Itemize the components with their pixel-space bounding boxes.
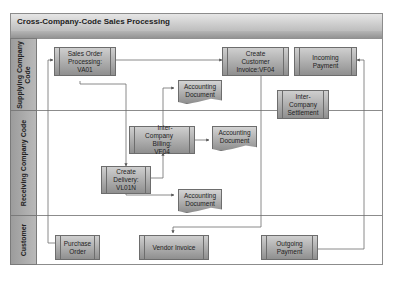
node-text: Delivery:	[107, 176, 144, 183]
node-text: Company	[283, 101, 323, 108]
node-text: Create	[240, 50, 272, 57]
node-vendor-invoice[interactable]: Vendor Invoice	[139, 235, 209, 260]
node-text: VF04	[148, 148, 176, 155]
node-text: Document	[185, 200, 215, 207]
node-text: Create	[110, 168, 142, 175]
node-text: Billing:	[146, 140, 177, 147]
node-text: Purchase	[58, 240, 97, 247]
node-text: VL01N	[110, 184, 142, 191]
node-text: Accounting	[218, 129, 250, 136]
node-text: Accounting	[184, 83, 216, 90]
node-text: Customer	[235, 58, 275, 65]
node-text: Incoming	[306, 54, 344, 61]
node-outgoing-payment[interactable]: OutgoingPayment	[261, 235, 318, 260]
node-sales-order-processing[interactable]: Sales OrderProcessing:VA01	[54, 47, 116, 76]
node-text: Order	[63, 248, 92, 255]
node-text: Settlement	[281, 109, 324, 116]
node-text: Payment	[307, 62, 345, 69]
node-text: VA01	[71, 66, 98, 73]
node-text: Inter-Company	[145, 124, 179, 139]
node-text: Document	[185, 91, 215, 98]
node-purchase-order[interactable]: PurchaseOrder	[55, 235, 100, 260]
node-text: Document	[220, 137, 250, 144]
node-text: Sales Order	[62, 50, 109, 57]
node-text: Accounting	[184, 192, 216, 199]
node-create-delivery[interactable]: CreateDelivery:VL01N	[101, 166, 151, 194]
node-incoming-payment[interactable]: IncomingPayment	[294, 47, 357, 76]
node-text: Invoice:VF04	[231, 66, 281, 73]
node-text: Inter-	[289, 93, 316, 100]
node-text: Vendor Invoice	[146, 244, 201, 252]
node-text: Processing:	[62, 58, 108, 65]
node-inter-company-settlement[interactable]: Inter-CompanySettlement	[277, 90, 329, 119]
node-text: Outgoing	[270, 240, 308, 247]
node-text: Payment	[271, 248, 309, 255]
node-create-customer-invoice[interactable]: CreateCustomerInvoice:VF04	[222, 47, 289, 76]
node-inter-company-billing[interactable]: Inter-CompanyBilling:VF04	[129, 126, 195, 154]
